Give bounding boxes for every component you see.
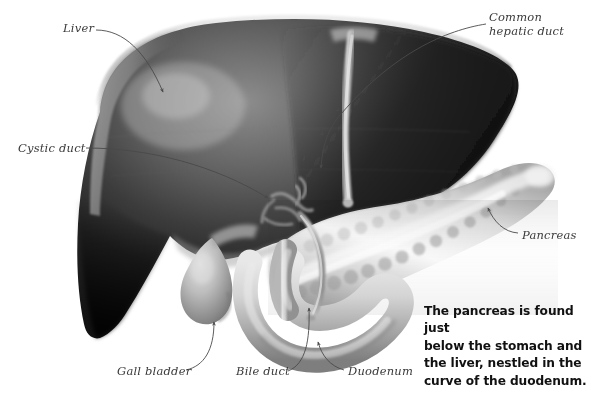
label-pancreas: Pancreas <box>522 229 577 242</box>
caption-block: The pancreas is found just below the sto… <box>424 303 600 390</box>
label-cystic-duct: Cystic duct <box>18 142 86 155</box>
anatomy-figure: Liver Common hepatic duct Cystic duct Pa… <box>0 0 607 394</box>
caption-line: The pancreas is found just <box>424 303 600 338</box>
label-duodenum: Duodenum <box>348 365 413 378</box>
caption-line: curve of the duodenum. <box>424 373 600 390</box>
label-bile-duct: Bile duct <box>236 365 290 378</box>
label-gall-bladder: Gall bladder <box>117 365 191 378</box>
caption-line: the liver, nestled in the <box>424 355 600 372</box>
caption-line: below the stomach and <box>424 338 600 355</box>
label-common-hepatic-duct: Common hepatic duct <box>489 11 581 38</box>
leader-gall-bladder <box>186 322 214 370</box>
label-liver: Liver <box>63 22 94 35</box>
